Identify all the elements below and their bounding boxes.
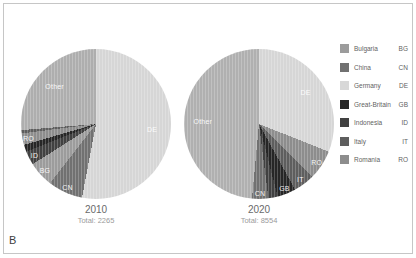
pie-slice-label-bg: BG (40, 167, 51, 174)
legend-item-cn: ChinaCN (340, 63, 408, 72)
pie-slice-label-other: Other (45, 82, 64, 89)
pie-slice-label-id: ID (31, 152, 38, 159)
pie-total-label: Total: 8554 (184, 216, 334, 226)
pie-slice-label-ro: RO (311, 158, 322, 165)
pie-slice-label-it: IT (297, 176, 304, 183)
legend-item-bg: BulgariaBG (340, 44, 408, 53)
legend-country-name: Germany (354, 82, 399, 89)
legend-item-id: IndonesiaID (340, 118, 408, 127)
pie-year-label: 2020 (184, 204, 334, 216)
legend-swatch-icon (340, 81, 349, 90)
legend-country-name: Indonesia (354, 119, 402, 126)
legend-item-ro: RomaniaRO (340, 155, 408, 164)
legend-item-de: GermanyDE (340, 81, 408, 90)
pie-slice-label-ro: RO (23, 134, 34, 141)
legend-country-code: ID (402, 119, 409, 126)
pie-slice-label-other: Other (194, 118, 213, 125)
legend-country-name: Italy (354, 138, 402, 145)
legend-country-name: China (354, 64, 399, 71)
legend-country-code: IT (402, 138, 408, 145)
legend-country-code: DE (399, 82, 408, 89)
pie-slice-label-gb: GB (279, 185, 290, 192)
pie-total-label: Total: 2265 (21, 216, 171, 226)
legend-item-it: ItalyIT (340, 137, 408, 146)
pie-caption-2010: 2010 Total: 2265 (21, 204, 171, 226)
legend-country-code: CN (399, 64, 408, 71)
legend-swatch-icon (340, 44, 349, 53)
pie-group-2010: DECNBGIDROOther 2010 Total: 2265 (21, 49, 171, 226)
legend-swatch-icon (340, 100, 349, 109)
pie-slice-label-de: DE (147, 126, 157, 133)
pie-chart-2010: DECNBGIDROOther (21, 49, 171, 199)
legend-swatch-icon (340, 137, 349, 146)
pie-slice-label-cn: CN (255, 189, 266, 196)
legend-swatch-icon (340, 155, 349, 164)
legend-country-name: Great-Britain (354, 101, 399, 108)
pie-slice-label-cn: CN (62, 183, 73, 190)
legend-country-code: GB (399, 101, 408, 108)
pie-year-label: 2010 (21, 204, 171, 216)
legend-country-name: Bulgaria (354, 45, 399, 52)
legend-swatch-icon (340, 63, 349, 72)
pie-chart-2020: DEROITGBCNOther (184, 49, 334, 199)
legend-country-code: BG (399, 45, 408, 52)
legend-country-code: RO (398, 156, 408, 163)
legend-item-gb: Great-BritainGB (340, 100, 408, 109)
pie-group-2020: DEROITGBCNOther 2020 Total: 8554 (184, 49, 334, 226)
panel-letter-label: B (9, 234, 16, 246)
pie-slice-label-de: DE (300, 89, 310, 96)
figure-frame: DECNBGIDROOther 2010 Total: 2265 DEROITG… (3, 3, 413, 254)
legend-swatch-icon (340, 118, 349, 127)
legend-country-name: Romania (354, 156, 398, 163)
legend: BulgariaBGChinaCNGermanyDEGreat-BritainG… (340, 44, 408, 174)
pie-caption-2020: 2020 Total: 8554 (184, 204, 334, 226)
